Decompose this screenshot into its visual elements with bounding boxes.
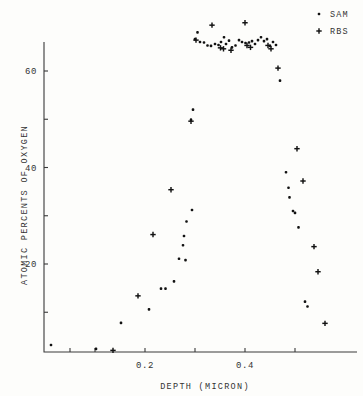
- data-point-dot: [183, 235, 186, 238]
- axis-lines: [44, 42, 357, 352]
- data-point-dot: [192, 108, 195, 111]
- data-point-dot: [228, 39, 231, 42]
- data-point-plus: [265, 43, 270, 48]
- data-point-dot: [285, 171, 288, 174]
- data-point-dot: [225, 43, 228, 46]
- y-tick-label: 60: [25, 67, 37, 77]
- legend-marker-plus: [316, 28, 321, 33]
- data-point-plus: [168, 187, 173, 192]
- series-rbs: [110, 20, 327, 353]
- data-point-dot: [182, 244, 185, 247]
- data-point-plus: [322, 321, 327, 326]
- data-point-plus: [150, 232, 155, 237]
- data-point-dot: [203, 41, 206, 44]
- data-point-dot: [210, 45, 213, 48]
- data-point-plus: [294, 146, 299, 151]
- data-point-plus: [188, 118, 193, 123]
- plot-axes: [44, 42, 357, 352]
- data-point-plus: [275, 65, 280, 70]
- data-point-dot: [223, 36, 226, 39]
- legend-marker-dot: [318, 13, 321, 16]
- data-point-dot: [191, 209, 194, 212]
- data-point-plus: [221, 46, 226, 51]
- data-point-dot: [184, 259, 187, 262]
- data-point-dot: [160, 287, 163, 290]
- data-point-dot: [287, 186, 290, 189]
- data-point-dot: [199, 41, 202, 44]
- legend-item-sam[interactable]: SAM: [318, 10, 349, 20]
- data-series-layer: [50, 20, 328, 353]
- legend-item-rbs[interactable]: RBS: [316, 27, 348, 37]
- y-axis-title: ATOMIC PERCENTS OF OXYGEN: [20, 125, 30, 285]
- data-point-dot: [220, 41, 223, 44]
- data-point-dot: [254, 43, 257, 46]
- y-axis-ticks: [44, 71, 48, 312]
- data-point-plus: [300, 178, 305, 183]
- data-point-dot: [304, 300, 307, 303]
- data-point-dot: [297, 226, 300, 229]
- data-point-plus: [315, 269, 320, 274]
- data-point-dot: [292, 210, 295, 213]
- data-point-dot: [306, 305, 309, 308]
- data-point-dot: [238, 39, 241, 42]
- data-point-dot: [257, 39, 260, 42]
- data-point-dot: [214, 43, 217, 46]
- data-point-dot: [288, 196, 291, 199]
- scatter-chart-figure: 0.20.4 204060 DEPTH (MICRON) ATOMIC PERC…: [0, 0, 363, 396]
- data-point-dot: [275, 44, 278, 47]
- data-point-plus: [209, 22, 214, 27]
- data-point-plus: [135, 293, 140, 298]
- x-axis-ticks: [70, 348, 295, 352]
- depth-profile-scatter-plot: 0.20.4 204060 DEPTH (MICRON) ATOMIC PERC…: [0, 0, 363, 396]
- data-point-dot: [234, 44, 237, 47]
- data-point-dot: [164, 287, 167, 290]
- data-point-dot: [95, 348, 98, 351]
- data-point-plus: [311, 244, 316, 249]
- data-point-dot: [50, 344, 53, 347]
- data-point-plus: [242, 20, 247, 25]
- data-point-dot: [266, 38, 269, 41]
- x-tick-label: 0.2: [136, 361, 154, 371]
- data-point-dot: [196, 31, 199, 34]
- data-point-dot: [294, 212, 297, 215]
- x-axis-title: DEPTH (MICRON): [160, 382, 250, 392]
- data-point-dot: [260, 36, 263, 39]
- data-point-dot: [272, 41, 275, 44]
- x-axis-tick-labels: 0.20.4: [136, 361, 254, 371]
- series-sam: [50, 31, 309, 350]
- data-point-dot: [248, 41, 251, 44]
- data-point-dot: [185, 220, 188, 223]
- data-point-dot: [173, 280, 176, 283]
- data-point-dot: [263, 40, 266, 43]
- data-point-dot: [148, 308, 151, 311]
- data-point-dot: [217, 44, 220, 47]
- data-point-dot: [206, 44, 209, 47]
- chart-legend: SAMRBS: [316, 10, 348, 37]
- data-point-dot: [241, 41, 244, 44]
- legend-label: RBS: [330, 27, 349, 37]
- data-point-dot: [251, 40, 254, 43]
- data-point-dot: [279, 79, 282, 82]
- legend-label: SAM: [330, 10, 349, 20]
- data-point-dot: [178, 257, 181, 260]
- data-point-dot: [120, 322, 123, 325]
- x-tick-label: 0.4: [236, 361, 254, 371]
